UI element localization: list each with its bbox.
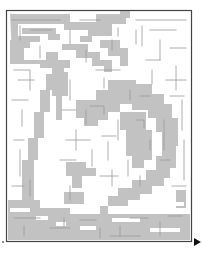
entrance-marker: [2, 241, 4, 243]
exit-arrow-icon: [194, 238, 201, 246]
maze-puzzle: [0, 0, 202, 261]
